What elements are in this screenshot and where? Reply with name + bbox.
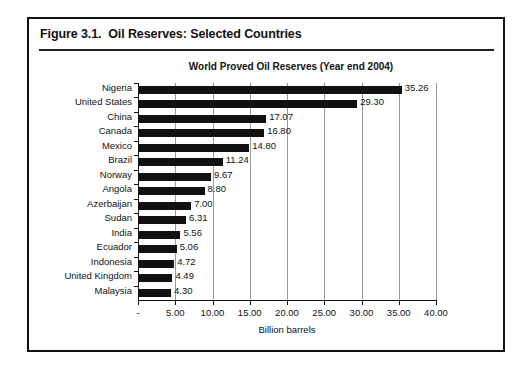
- category-label: Nigeria: [102, 82, 132, 93]
- category-label: Angola: [102, 183, 132, 194]
- x-axis-title: Billion barrels: [138, 324, 436, 335]
- bar-row: United States29.30: [138, 97, 436, 111]
- bar-row: Nigeria35.26: [138, 83, 436, 97]
- y-tick: [134, 170, 138, 171]
- y-tick: [134, 184, 138, 185]
- category-label: Canada: [99, 125, 132, 136]
- y-tick: [134, 213, 138, 214]
- bar: [139, 100, 357, 108]
- figure-caption: Figure 3.1. Oil Reserves: Selected Count…: [40, 27, 302, 41]
- bar: [139, 216, 186, 224]
- chart-title: World Proved Oil Reserves (Year end 2004…: [29, 61, 507, 72]
- x-tick: [138, 300, 139, 305]
- x-tick: [213, 300, 214, 305]
- y-tick: [134, 141, 138, 142]
- x-tick: [250, 300, 251, 305]
- bar-value-label: 4.49: [175, 270, 194, 281]
- y-tick: [134, 112, 138, 113]
- category-label: India: [111, 227, 132, 238]
- bar: [139, 158, 223, 166]
- bar: [139, 260, 174, 268]
- category-label: Sudan: [105, 212, 132, 223]
- category-label: Azerbaijan: [87, 198, 132, 209]
- bar-value-label: 11.24: [226, 154, 249, 165]
- x-tick-label: 30.00: [350, 307, 374, 318]
- bar-value-label: 6.31: [189, 212, 208, 223]
- x-tick: [399, 300, 400, 305]
- bar: [139, 187, 205, 195]
- bar-row: Norway9.67: [138, 170, 436, 184]
- x-tick: [362, 300, 363, 305]
- x-tick-label: 5.00: [166, 307, 185, 318]
- x-tick-label: 15.00: [238, 307, 262, 318]
- bar: [139, 202, 191, 210]
- y-tick: [134, 228, 138, 229]
- category-label: Brazil: [108, 154, 132, 165]
- y-tick: [134, 155, 138, 156]
- bar-row: Mexico14.80: [138, 141, 436, 155]
- bar: [139, 245, 177, 253]
- bar-value-label: 5.56: [183, 227, 202, 238]
- category-label: China: [107, 111, 132, 122]
- x-tick-label: 25.00: [312, 307, 336, 318]
- bar-value-label: 4.72: [177, 256, 196, 267]
- category-label: Ecuador: [97, 241, 132, 252]
- x-tick: [436, 300, 437, 305]
- category-label: Malaysia: [95, 285, 133, 296]
- x-tick-label: 10.00: [201, 307, 225, 318]
- bar: [139, 115, 266, 123]
- bar-value-label: 16.80: [267, 125, 291, 136]
- x-tick-label: 40.00: [424, 307, 448, 318]
- y-tick: [134, 97, 138, 98]
- x-tick-label: 35.00: [387, 307, 411, 318]
- y-tick: [134, 83, 138, 84]
- x-tick: [287, 300, 288, 305]
- bar-value-label: 8.80: [208, 183, 227, 194]
- bar-row: Brazil11.24: [138, 155, 436, 169]
- bar: [139, 173, 211, 181]
- y-tick: [134, 242, 138, 243]
- bar-value-label: 17.07: [269, 111, 293, 122]
- bar-row: Indonesia4.72: [138, 257, 436, 271]
- bar: [139, 231, 180, 239]
- y-tick: [134, 271, 138, 272]
- category-label: United Kingdom: [64, 270, 132, 281]
- bar-row: Azerbaijan7.00: [138, 199, 436, 213]
- bar-row: Sudan6.31: [138, 213, 436, 227]
- bar: [139, 86, 402, 94]
- category-label: Mexico: [102, 140, 132, 151]
- y-tick: [134, 199, 138, 200]
- bar-value-label: 5.06: [180, 241, 199, 252]
- bar-row: United Kingdom4.49: [138, 271, 436, 285]
- y-tick: [134, 257, 138, 258]
- gridline: [436, 83, 437, 300]
- bar-value-label: 7.00: [194, 198, 213, 209]
- bar-value-label: 35.26: [405, 82, 429, 93]
- bar-value-label: 4.30: [174, 285, 193, 296]
- bar: [139, 144, 249, 152]
- bar-row: China17.07: [138, 112, 436, 126]
- x-tick: [324, 300, 325, 305]
- x-tick: [175, 300, 176, 305]
- bar-value-label: 9.67: [214, 169, 233, 180]
- bar-row: Ecuador5.06: [138, 242, 436, 256]
- x-tick-label: 20.00: [275, 307, 299, 318]
- bar-row: Malaysia4.30: [138, 286, 436, 300]
- x-tick-label: -: [136, 307, 139, 318]
- bar: [139, 274, 172, 282]
- y-tick: [134, 126, 138, 127]
- figure-box: Figure 3.1. Oil Reserves: Selected Count…: [27, 17, 505, 352]
- bar-value-label: 29.30: [360, 96, 384, 107]
- bar: [139, 289, 171, 297]
- bar-row: India5.56: [138, 228, 436, 242]
- y-tick: [134, 286, 138, 287]
- bar-row: Canada16.80: [138, 126, 436, 140]
- bar: [139, 129, 264, 137]
- bar-value-label: 14.80: [252, 140, 276, 151]
- chart-plot-area: Nigeria35.26United States29.30China17.07…: [138, 83, 436, 300]
- caption-divider: [39, 49, 494, 51]
- category-label: Norway: [100, 169, 132, 180]
- category-label: Indonesia: [91, 256, 132, 267]
- category-label: United States: [75, 96, 132, 107]
- bar-row: Angola8.80: [138, 184, 436, 198]
